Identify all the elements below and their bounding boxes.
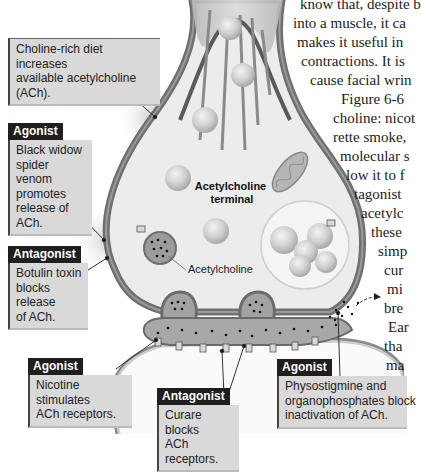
callout-text: Physostigmine and (285, 379, 401, 394)
callout-text: ACh receptors. (36, 407, 126, 422)
callout-choline-diet: Choline-rich diet increases available ac… (8, 38, 160, 106)
callout-text: Curare blocks (165, 408, 233, 437)
body-text-line: contractions. It is (301, 52, 405, 71)
body-text-line: Ear (388, 318, 409, 337)
antagonist-tag: Antagonist (157, 388, 230, 405)
body-text-line: Figure 6-6 (341, 90, 404, 109)
callout-text: organophosphates block (285, 394, 401, 409)
callout-text: release of ACh. (16, 201, 86, 230)
body-text-line: tagonist (354, 185, 402, 204)
body-text-line: into a muscle, it ca (293, 14, 406, 33)
callout-text: blocks release (16, 281, 82, 310)
callout-text: of ACh. (16, 310, 82, 325)
callout-text: inactivation of ACh. (285, 408, 401, 423)
callout-text: ACh receptors. (165, 437, 233, 466)
body-text-line: rette smoke, (333, 128, 406, 147)
callout-text: Botulin toxin (16, 266, 82, 281)
callout-nicotine: Agonist Nicotine stimulates ACh receptor… (28, 356, 132, 428)
callout-text: available acetylcholine (ACh). (16, 71, 154, 100)
callout-text: Choline-rich diet increases (16, 42, 154, 71)
agonist-tag: Agonist (28, 358, 83, 375)
callout-text: promotes (16, 187, 86, 202)
callout-physostigmine: Agonist Physostigmine and organophosphat… (277, 357, 407, 429)
body-text-line: these (371, 223, 402, 242)
callout-text: Black widow (16, 143, 86, 158)
body-text-line: acetylc (361, 204, 403, 223)
body-text-line: makes it useful in (297, 33, 403, 52)
body-text-line: know that, despite b (300, 0, 421, 14)
callout-botulin: Antagonist Botulin toxin blocks release … (8, 244, 88, 330)
body-text-line: mi (387, 280, 403, 299)
callout-curare: Antagonist Curare blocks ACh receptors. (157, 386, 239, 472)
body-text-line: choline: nicot (333, 109, 415, 128)
body-text-line: cur (384, 261, 403, 280)
body-text-line: cause facial wrin (310, 71, 412, 90)
body-text-line: bre (384, 299, 403, 318)
body-text-line: simp (378, 242, 407, 261)
body-text-line: molecular s (340, 147, 410, 166)
body-text-line: tha (384, 337, 402, 356)
antagonist-tag: Antagonist (8, 246, 81, 263)
callout-text: Nicotine stimulates (36, 378, 126, 407)
callout-text: spider venom (16, 158, 86, 187)
callout-black-widow: Agonist Black widow spider venom promote… (8, 121, 92, 236)
agonist-tag: Agonist (8, 123, 63, 140)
agonist-tag: Agonist (277, 359, 332, 376)
body-text-line: low it to f (346, 166, 405, 185)
